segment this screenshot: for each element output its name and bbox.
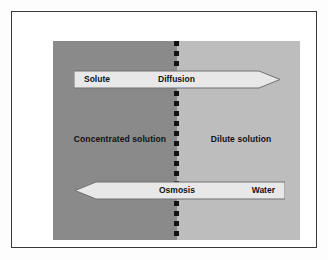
osmosis-arrow-left-icon: Osmosis Water xyxy=(74,181,285,200)
concentrated-solution-label: Concentrated solution xyxy=(66,134,174,144)
diffusion-arrow-right-icon: Solute Diffusion xyxy=(74,70,281,89)
figure-frame: Concentrated solution Dilute solution So… xyxy=(11,11,317,248)
dilute-solution-label: Dilute solution xyxy=(191,134,291,144)
osmosis-label: Osmosis xyxy=(159,181,195,200)
osmosis-diffusion-figure: Concentrated solution Dilute solution So… xyxy=(0,0,328,260)
diffusion-label: Diffusion xyxy=(158,70,195,89)
solute-label: Solute xyxy=(84,70,110,89)
solution-panel: Concentrated solution Dilute solution So… xyxy=(53,41,300,240)
water-label: Water xyxy=(252,181,275,200)
